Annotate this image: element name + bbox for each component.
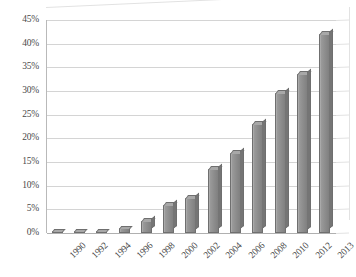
depth-gridline [336,90,349,92]
y-tick-label: 10% [22,181,39,191]
bar-slot [91,20,113,233]
depth-right-edge [349,7,350,220]
plot-area [46,20,336,233]
bar-slot [224,20,246,233]
depth-gridline [336,209,349,211]
depth-gridline [336,232,349,234]
x-tick-label: 1990 [68,241,88,261]
bars-layer [46,20,336,233]
y-tick-label: 45% [22,15,39,25]
y-tick-label: 40% [22,39,39,49]
x-tick-label: 2002 [202,241,222,261]
depth-gridline [336,19,349,21]
bar-slot [314,20,336,233]
bar-slot [180,20,202,233]
bar [275,93,286,233]
bar [319,34,330,233]
bar [208,169,219,233]
x-axis: 1990199219941996199820002002200420062008… [46,233,336,277]
depth-gridline [336,185,349,187]
y-tick-label: 15% [22,157,39,167]
y-axis: 0%5%10%15%20%25%30%35%40%45% [0,0,46,277]
y-tick-label: 0% [27,228,39,238]
x-tick-label: 2012 [314,241,334,261]
y-tick-label: 25% [22,110,39,120]
bar [252,124,263,233]
x-tick-label: 2010 [292,241,312,261]
x-tick-label: 2013 [336,241,356,261]
bar-slot [46,20,68,233]
bar [141,221,152,233]
bar-slot [135,20,157,233]
bar-slot [113,20,135,233]
x-tick-label: 2000 [180,241,200,261]
y-tick-label: 30% [22,86,39,96]
bar-slot [68,20,90,233]
y-tick-label: 35% [22,63,39,73]
depth-gridline [336,114,349,116]
bar-slot [269,20,291,233]
bar [185,198,196,234]
depth-gridline [336,161,349,163]
x-tick-label: 1996 [135,241,155,261]
bar [163,205,174,233]
bar-slot [158,20,180,233]
x-tick-label: 1994 [113,241,133,261]
bar-slot [247,20,269,233]
x-tick-label: 2006 [247,241,267,261]
bar [230,153,241,233]
bar-slot [291,20,313,233]
bar-slot [202,20,224,233]
y-tick-label: 20% [22,134,39,144]
depth-gridline [336,138,349,140]
x-tick-label: 1992 [91,241,111,261]
depth-gridline [336,67,349,69]
bar [297,74,308,234]
depth-gridline [336,43,349,45]
y-tick-label: 5% [27,205,39,215]
depth-top-edge [46,0,349,8]
x-tick-label: 2004 [225,241,245,261]
x-tick-label: 1998 [158,241,178,261]
x-tick-label: 2008 [269,241,289,261]
